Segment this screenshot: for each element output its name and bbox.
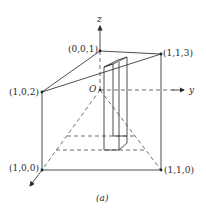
figure-caption: (a) (96, 193, 109, 203)
point-102 (41, 91, 44, 94)
y-axis-label: y (188, 85, 195, 95)
top-surface (42, 51, 161, 92)
x-axis (30, 90, 100, 186)
label-102: (1,0,2) (9, 87, 39, 97)
point-001 (99, 50, 102, 53)
prism-edges (42, 54, 161, 170)
diagram-canvas: z y O (0, 0, 206, 220)
base-strip-lines (56, 136, 146, 150)
point-110 (160, 169, 163, 172)
point-113 (160, 53, 163, 56)
point-100 (41, 169, 44, 172)
label-110: (1,1,0) (164, 165, 194, 175)
z-axis-label: z (96, 14, 102, 24)
label-100: (1,0,0) (9, 163, 39, 173)
origin-label: O (89, 84, 97, 94)
diagonal-o-to-110 (100, 90, 161, 170)
label-113: (1,1,3) (163, 48, 193, 58)
label-001: (0,0,1) (68, 44, 98, 54)
